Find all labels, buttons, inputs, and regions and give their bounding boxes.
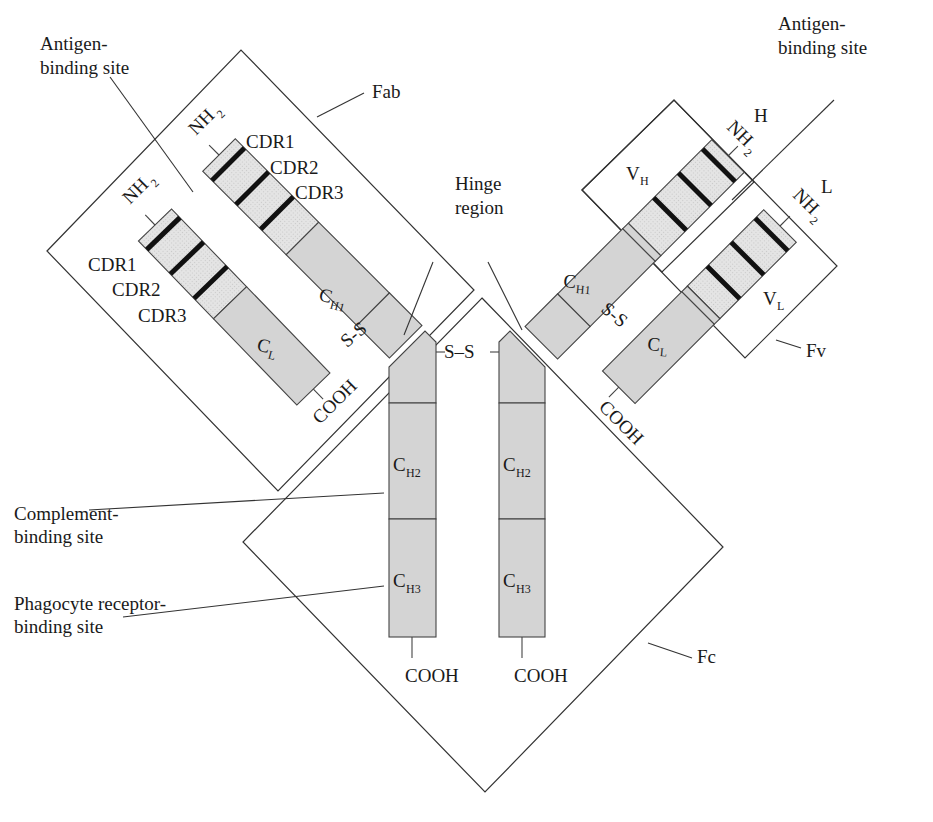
- antigen-binding-right-line1: Antigen-: [778, 13, 846, 34]
- nh2-heavy-left: NH 2: [184, 99, 228, 143]
- svg-text:C: C: [503, 454, 516, 475]
- svg-text:H2: H2: [406, 466, 421, 480]
- cl-domain-left: [213, 287, 329, 405]
- heavy-chain-label: H: [754, 105, 768, 126]
- svg-text:H2: H2: [516, 466, 531, 480]
- cdr3-label-heavy: CDR3: [295, 182, 344, 203]
- light-chain-label: L: [821, 176, 833, 197]
- leader-complement: [89, 493, 384, 510]
- svg-text:C: C: [503, 570, 516, 591]
- hinge-label-line2: region: [455, 197, 504, 218]
- antibody-diagram: S–S S-S S-S Antigen- binding site Fab Hi…: [0, 0, 933, 822]
- vl-label-right: V L: [763, 288, 784, 313]
- svg-text:H3: H3: [516, 582, 531, 596]
- svg-text:H: H: [640, 174, 649, 188]
- svg-text:H3: H3: [406, 582, 421, 596]
- nh2-light-left: NH 2: [118, 168, 162, 212]
- antigen-binding-right-line2: binding site: [778, 37, 867, 58]
- leader-fv: [776, 340, 801, 348]
- hinge-label-line1: Hinge: [455, 173, 501, 194]
- cooh-heavy-right: COOH: [514, 665, 568, 686]
- vh-domain-right: [628, 140, 744, 256]
- svg-text:L: L: [777, 299, 784, 313]
- fv-label: Fv: [806, 340, 827, 361]
- fab-label: Fab: [372, 81, 401, 102]
- complement-label-line2: binding site: [14, 526, 103, 547]
- fc-label: Fc: [697, 646, 716, 667]
- svg-text:V: V: [626, 163, 640, 184]
- antigen-binding-left-line1: Antigen-: [40, 33, 108, 54]
- svg-text:C: C: [393, 454, 406, 475]
- svg-text:L: L: [659, 345, 668, 360]
- cooh-heavy-left: COOH: [405, 665, 459, 686]
- cdr2-label-light: CDR2: [112, 279, 161, 300]
- cdr1-label-light: CDR1: [88, 254, 137, 275]
- svg-text:V: V: [763, 288, 777, 309]
- svg-text:C: C: [393, 570, 406, 591]
- svg-text:NH: NH: [184, 104, 218, 138]
- cdr2-label-heavy: CDR2: [270, 157, 319, 178]
- svg-text:NH: NH: [723, 116, 757, 150]
- left-heavy-stem: [389, 331, 436, 658]
- vh-label-right: V H: [626, 163, 649, 188]
- antigen-binding-left-line2: binding site: [40, 57, 129, 78]
- svg-text:H1: H1: [575, 282, 591, 297]
- phagocyte-label-line2: binding site: [14, 616, 103, 637]
- svg-text:NH: NH: [118, 173, 152, 207]
- leader-antigen-left: [110, 77, 193, 192]
- leader-fc: [648, 643, 692, 658]
- svg-text:NH: NH: [789, 184, 823, 218]
- right-heavy-stem: [499, 331, 545, 658]
- interchain-disulfide-label: S–S: [444, 341, 475, 362]
- leader-fab: [317, 93, 364, 117]
- phagocyte-label-line1: Phagocyte receptor-: [14, 593, 166, 614]
- cdr3-label-light: CDR3: [138, 305, 187, 326]
- cdr1-label-heavy: CDR1: [246, 131, 295, 152]
- leader-hinge-right: [488, 262, 522, 330]
- complement-label-line1: Complement-: [14, 503, 118, 524]
